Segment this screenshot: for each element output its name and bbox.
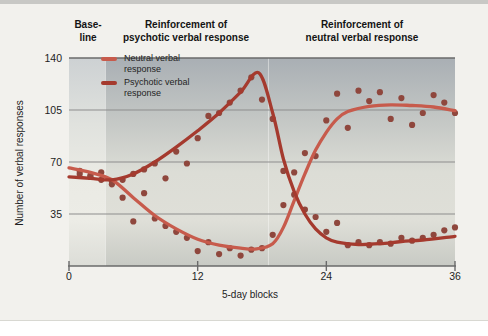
phase-header-neutral-line2: neutral verbal response [270,32,454,45]
data-point [120,195,126,201]
data-point [141,190,147,196]
data-point [355,88,361,94]
legend-entry-neutral: Neutral verbal response [101,53,212,74]
y-tick-label-35: 35 [22,208,62,220]
x-tick-label-0: 0 [57,270,81,282]
phase-header-neutral: Reinforcement of neutral verbal response [270,19,454,44]
data-point [238,253,244,259]
figure-card: Base- line Reinforcement of psychotic ve… [0,0,488,320]
chart-plot-svg [0,0,488,336]
data-point [420,110,426,116]
phase-header-psychotic-line1: Reinforcement of [95,19,277,32]
y-tick-label-140: 140 [22,52,62,64]
data-point [184,160,190,166]
data-point [398,95,404,101]
x-axis-title: 5-day blocks [190,289,310,300]
data-point [323,229,329,235]
data-point [441,100,447,106]
data-point [259,97,265,103]
data-point [205,113,211,119]
data-point [270,232,276,238]
data-point [334,220,340,226]
data-point [409,122,415,128]
data-point [388,116,394,122]
data-point [195,135,201,141]
figure-top-edge [0,0,488,4]
data-point [130,218,136,224]
data-point [441,227,447,233]
legend-label-psychotic: Psychotic verbal response [124,77,212,98]
data-point [280,202,286,208]
x-tick-label-36: 36 [443,270,467,282]
data-point [366,98,372,104]
phase-header-psychotic-line2: psychotic verbal response [95,32,277,45]
data-point [377,89,383,95]
legend: Neutral verbal response Psychotic verbal… [101,53,212,101]
data-point [334,91,340,97]
y-tick-label-70: 70 [22,156,62,168]
legend-swatch-neutral [101,57,117,61]
data-point [216,251,222,257]
legend-entry-psychotic: Psychotic verbal response [101,77,212,98]
data-point [452,224,458,230]
data-point [313,214,319,220]
data-point [323,117,329,123]
phase-header-psychotic: Reinforcement of psychotic verbal respon… [95,19,277,44]
data-point [302,150,308,156]
y-tick-label-105: 105 [22,104,62,116]
data-point [162,175,168,181]
data-point [291,169,297,175]
data-point [195,248,201,254]
data-point [431,92,437,98]
legend-swatch-psychotic [101,81,117,85]
page: { "chart_data": { "type": "scatter", "ti… [0,0,488,336]
legend-label-neutral: Neutral verbal response [124,53,212,74]
phase-header-neutral-line1: Reinforcement of [270,19,454,32]
figure-bottom-margin [0,320,488,336]
x-tick-label-12: 12 [186,270,210,282]
data-point [345,125,351,131]
x-tick-label-24: 24 [314,270,338,282]
